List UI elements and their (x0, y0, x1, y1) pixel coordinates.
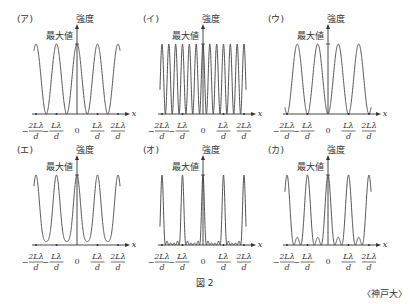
svg-text:最大値: 最大値 (46, 30, 73, 41)
svg-text:d: d (305, 263, 310, 272)
svg-text:2Lλ: 2Lλ (360, 252, 376, 261)
svg-text:Lλ: Lλ (217, 252, 228, 261)
svg-text:Lλ: Lλ (91, 252, 102, 261)
svg-text:0: 0 (325, 257, 330, 266)
svg-text:−: − (273, 258, 280, 267)
svg-text:Lλ: Lλ (50, 121, 61, 130)
svg-text:d: d (54, 263, 59, 272)
svg-text:d: d (180, 132, 185, 141)
svg-text:d: d (33, 263, 38, 272)
svg-text:d: d (95, 132, 100, 141)
svg-text:−: − (42, 258, 49, 267)
svg-text:最大値: 最大値 (172, 30, 199, 41)
svg-text:d: d (346, 132, 351, 141)
x-axis-arrow-icon (376, 112, 381, 116)
y-axis-arrow-icon (75, 155, 79, 160)
svg-text:d: d (241, 263, 246, 272)
svg-text:2Lλ: 2Lλ (235, 252, 251, 261)
panel-o: x強度最大値(オ)2Lλd−Lλd−0Lλd2Lλd (143, 144, 263, 272)
y-axis-arrow-icon (201, 24, 205, 29)
svg-text:−: − (168, 258, 175, 267)
svg-text:Lλ: Lλ (176, 252, 187, 261)
svg-text:(カ): (カ) (268, 145, 284, 155)
svg-text:−: − (148, 258, 155, 267)
svg-text:−: − (293, 258, 300, 267)
svg-text:Lλ: Lλ (176, 121, 187, 130)
svg-text:d: d (115, 263, 120, 272)
svg-text:d: d (241, 132, 246, 141)
svg-text:(ア): (ア) (17, 14, 33, 24)
svg-text:(イ): (イ) (143, 14, 159, 24)
figure-2: x強度最大値(ア)2Lλd−Lλd−0Lλd2Lλdx強度最大値(イ)2Lλd−… (0, 0, 413, 304)
svg-text:d: d (305, 132, 310, 141)
svg-text:Lλ: Lλ (301, 121, 312, 130)
svg-text:2Lλ: 2Lλ (360, 121, 376, 130)
y-axis-arrow-icon (326, 24, 330, 29)
svg-text:d: d (33, 132, 38, 141)
svg-text:Lλ: Lλ (342, 252, 353, 261)
svg-text:x: x (383, 109, 388, 118)
svg-text:d: d (284, 132, 289, 141)
svg-text:0: 0 (200, 126, 205, 135)
svg-text:最大値: 最大値 (46, 161, 73, 172)
svg-text:d: d (221, 132, 226, 141)
svg-text:最大値: 最大値 (297, 30, 324, 41)
x-axis-arrow-icon (376, 243, 381, 247)
svg-text:Lλ: Lλ (91, 121, 102, 130)
svg-text:強度: 強度 (202, 13, 220, 24)
svg-text:x: x (258, 240, 263, 249)
svg-text:最大値: 最大値 (172, 161, 199, 172)
panel-a: x強度最大値(ア)2Lλd−Lλd−0Lλd2Lλd (17, 13, 137, 141)
svg-text:強度: 強度 (327, 144, 345, 155)
svg-text:2Lλ: 2Lλ (109, 121, 125, 130)
svg-text:−: − (273, 127, 280, 136)
svg-text:−: − (22, 127, 29, 136)
svg-text:d: d (115, 132, 120, 141)
svg-text:−: − (42, 127, 49, 136)
svg-text:−: − (168, 127, 175, 136)
panel-ka: x強度最大値(カ)2Lλd−Lλd−0Lλd2Lλd (268, 144, 388, 272)
svg-text:d: d (284, 263, 289, 272)
svg-text:Lλ: Lλ (301, 252, 312, 261)
svg-text:x: x (132, 109, 137, 118)
figure-caption: 図 2 (196, 276, 214, 289)
svg-text:d: d (366, 132, 371, 141)
svg-text:−: − (148, 127, 155, 136)
svg-text:強度: 強度 (76, 13, 94, 24)
svg-text:(エ): (エ) (17, 145, 33, 155)
svg-text:最大値: 最大値 (297, 161, 324, 172)
svg-text:強度: 強度 (202, 144, 220, 155)
svg-text:d: d (221, 263, 226, 272)
x-axis-arrow-icon (125, 243, 130, 247)
svg-text:d: d (180, 263, 185, 272)
svg-text:x: x (258, 109, 263, 118)
panel-e: x強度最大値(エ)2Lλd−Lλd−0Lλd2Lλd (17, 144, 137, 272)
y-axis-arrow-icon (326, 155, 330, 160)
panel-u: x強度最大値(ウ)2Lλd−Lλd−0Lλd2Lλd (268, 13, 388, 141)
svg-text:d: d (159, 132, 164, 141)
svg-text:−: − (22, 258, 29, 267)
svg-text:強度: 強度 (327, 13, 345, 24)
svg-text:0: 0 (74, 126, 79, 135)
svg-text:0: 0 (325, 126, 330, 135)
y-axis-arrow-icon (75, 24, 79, 29)
svg-text:d: d (366, 263, 371, 272)
source-label: 〈神戸大〉 (362, 287, 407, 300)
svg-text:x: x (383, 240, 388, 249)
svg-text:強度: 強度 (76, 144, 94, 155)
svg-text:Lλ: Lλ (50, 252, 61, 261)
panel-i: x強度最大値(イ)2Lλd−Lλd−0Lλd2Lλd (143, 13, 263, 141)
y-axis-arrow-icon (201, 155, 205, 160)
svg-text:0: 0 (74, 257, 79, 266)
svg-text:2Lλ: 2Lλ (109, 252, 125, 261)
svg-text:d: d (54, 132, 59, 141)
svg-text:(ウ): (ウ) (268, 14, 284, 24)
svg-text:d: d (346, 263, 351, 272)
svg-text:(オ): (オ) (143, 145, 159, 155)
svg-text:Lλ: Lλ (342, 121, 353, 130)
svg-text:0: 0 (200, 257, 205, 266)
svg-text:d: d (95, 263, 100, 272)
svg-text:2Lλ: 2Lλ (235, 121, 251, 130)
svg-text:x: x (132, 240, 137, 249)
svg-text:d: d (159, 263, 164, 272)
